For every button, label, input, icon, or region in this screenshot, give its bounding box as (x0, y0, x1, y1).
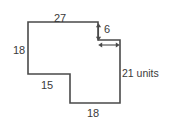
dimension-label-top: 27 (54, 13, 66, 24)
geometry-figure: 27 18 6 21 units 15 18 (0, 0, 174, 128)
notch-width-arrow (98, 43, 120, 48)
dimension-label-bottom: 18 (87, 108, 99, 119)
dimension-label-left: 18 (13, 45, 25, 56)
dimension-label-middle-horizontal: 15 (41, 80, 53, 91)
notch-height-arrowhead-up (96, 23, 101, 27)
dimension-label-right: 21 units (122, 68, 159, 79)
dimension-label-notch-height: 6 (104, 24, 110, 35)
notch-height-arrow (96, 23, 101, 41)
notch-width-arrowhead-left (98, 43, 102, 48)
